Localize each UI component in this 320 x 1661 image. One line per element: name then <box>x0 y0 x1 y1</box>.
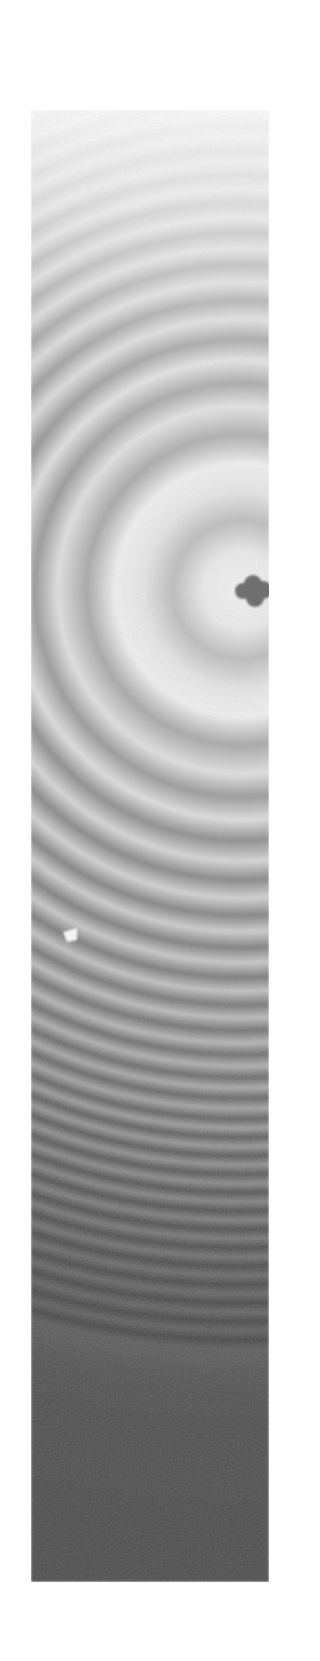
fringe-photo <box>31 110 269 1582</box>
interference-rings-image <box>31 110 269 1582</box>
film-grain <box>31 110 269 1582</box>
